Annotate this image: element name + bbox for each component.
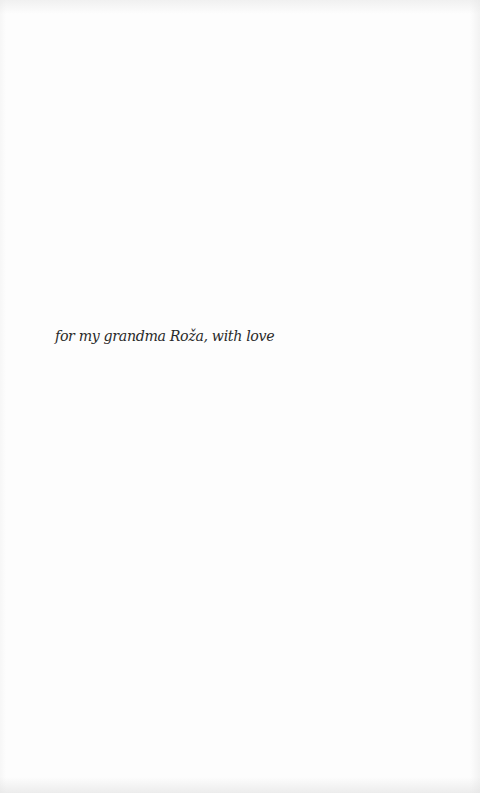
- dedication-text: for my grandma Roža, with love: [55, 327, 274, 345]
- book-page: for my grandma Roža, with love: [0, 0, 480, 793]
